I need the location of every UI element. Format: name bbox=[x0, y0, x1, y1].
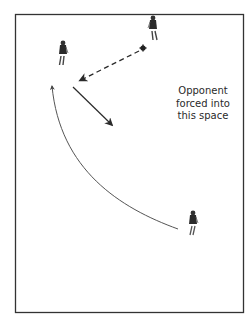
annotation-text: Opponent forced into this space bbox=[168, 85, 238, 123]
annotation-line-1: Opponent bbox=[168, 85, 238, 98]
field-border bbox=[16, 15, 244, 313]
annotation-line-3: this space bbox=[168, 110, 238, 123]
tactics-diagram bbox=[0, 0, 252, 326]
annotation-line-2: forced into bbox=[168, 98, 238, 111]
